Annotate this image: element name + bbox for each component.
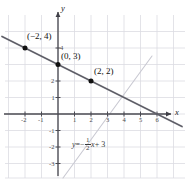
x-axis-label: x <box>175 108 179 117</box>
x-tick-label-neg1: -1 <box>38 117 43 124</box>
x-tick-label-5: 5 <box>139 117 142 124</box>
point-label-0-3: (0, 3) <box>61 52 81 61</box>
equation-caption: y=−12x+ 3 <box>72 137 105 153</box>
x-tick-label-6: 6 <box>156 117 159 124</box>
x-tick-label-4: 4 <box>123 117 126 124</box>
equation-fraction: 12 <box>85 137 91 153</box>
x-tick-label-1: 1 <box>73 117 76 124</box>
y-tick-label-neg3: -3 <box>49 161 54 168</box>
equation-minus: − <box>80 140 85 149</box>
data-point-neg2-4 <box>23 46 28 51</box>
x-tick-label-3: 3 <box>106 117 109 124</box>
y-tick-label-neg2: -2 <box>49 144 54 151</box>
coordinate-plane-svg <box>0 0 189 182</box>
x-tick-label-neg2: -2 <box>21 117 26 124</box>
fraction-denominator: 2 <box>85 145 91 152</box>
data-point-0-3 <box>56 62 61 67</box>
graph-figure: y x -2 -1 1 2 3 4 5 6 4 2 1 -1 -2 -3 (−2… <box>0 0 189 182</box>
x-tick-label-2: 2 <box>90 117 93 124</box>
y-tick-label-1: 1 <box>52 95 55 102</box>
point-label-2-2: (2, 2) <box>94 67 114 76</box>
equation-constant: + 3 <box>95 140 106 149</box>
y-axis-label: y <box>61 4 65 13</box>
y-tick-label-neg1: -1 <box>49 128 54 135</box>
data-point-2-2 <box>89 79 94 84</box>
point-label-neg2-4: (−2, 4) <box>27 32 52 41</box>
y-tick-label-2: 2 <box>51 78 54 85</box>
